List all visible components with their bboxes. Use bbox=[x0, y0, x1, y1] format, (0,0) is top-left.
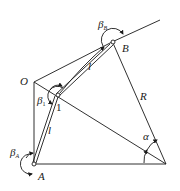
beta-1-subscript: 1 bbox=[42, 101, 45, 107]
label-B: B bbox=[122, 42, 129, 54]
link-1B-edge-2 bbox=[59, 45, 113, 96]
link-A1-edge-2 bbox=[36, 97, 58, 163]
label-beta-1: β1 bbox=[36, 94, 45, 107]
label-R: R bbox=[139, 90, 147, 102]
link-1B-edge-1 bbox=[56, 44, 110, 94]
label-A: A bbox=[37, 170, 45, 182]
label-O: O bbox=[20, 75, 28, 87]
beta-A-arc-top bbox=[26, 153, 33, 158]
joint-B bbox=[111, 40, 115, 44]
radius-line-R bbox=[113, 43, 166, 164]
label-l-lower: l bbox=[48, 124, 51, 136]
beta-B-subscript: B bbox=[103, 25, 107, 31]
line-B-extension bbox=[112, 20, 160, 42]
kinematic-chain-diagram: O A B 1 l l R βB β1 βA α bbox=[0, 0, 180, 191]
label-beta-A: βA bbox=[9, 146, 19, 159]
beta-1-arc-top bbox=[50, 85, 62, 90]
line-O-B bbox=[34, 42, 112, 82]
label-beta-B: βB bbox=[97, 18, 107, 31]
label-joint-1: 1 bbox=[56, 101, 62, 113]
joint-A bbox=[32, 162, 36, 166]
joint-1 bbox=[56, 93, 60, 97]
label-l-upper: l bbox=[88, 60, 91, 72]
label-alpha: α bbox=[143, 130, 149, 142]
beta-A-subscript: A bbox=[14, 153, 19, 159]
